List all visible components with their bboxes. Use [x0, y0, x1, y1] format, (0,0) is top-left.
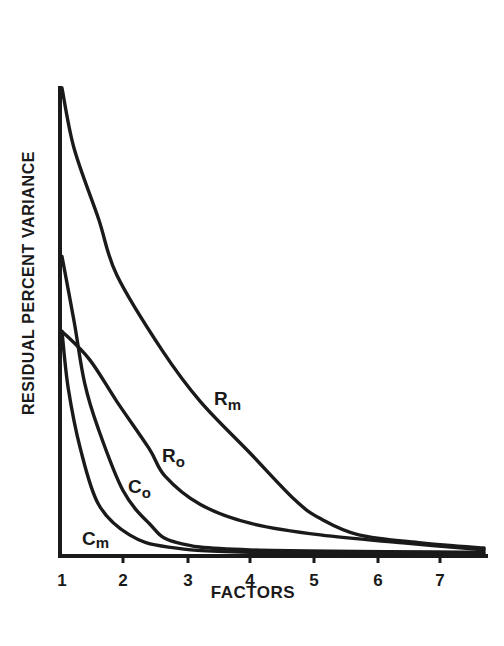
curve-co	[62, 257, 484, 553]
x-tick-label: 2	[118, 571, 127, 590]
curves	[62, 88, 484, 554]
curve-label-ro: Ro	[162, 445, 185, 470]
x-tick-label: 1	[57, 571, 66, 590]
x-tick-label: 3	[183, 571, 192, 590]
curve-label-rm: Rm	[214, 388, 241, 413]
x-axis-title: FACTORS	[211, 583, 295, 602]
y-axis-title: RESIDUAL PERCENT VARIANCE	[20, 151, 37, 415]
curve-rm	[62, 88, 484, 548]
curve-cm	[62, 331, 484, 554]
curve-label-co: Co	[128, 476, 151, 501]
curve-label-cm: Cm	[82, 528, 109, 551]
x-tick-label: 7	[435, 571, 444, 590]
curve-ro	[62, 331, 484, 550]
x-tick-label: 5	[309, 571, 318, 590]
x-tick-label: 6	[373, 571, 382, 590]
scree-chart: 1234567 Rm Ro Co Cm FACTORS RESIDUAL PER…	[0, 0, 504, 646]
